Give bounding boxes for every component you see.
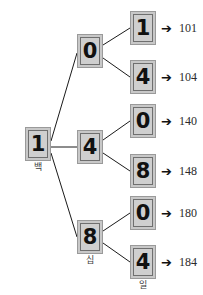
result-value-140: 140 — [179, 115, 197, 127]
node-ones-8[interactable]: 8 — [130, 154, 156, 188]
edge-4-to-8 — [103, 153, 130, 171]
edge-root-to-0 — [51, 53, 77, 141]
place-label-ones: 일 — [130, 280, 156, 290]
node-ones-1[interactable]: 1 — [130, 11, 156, 45]
result-148: ➔ 148 — [161, 164, 197, 178]
node-ones-0-mid[interactable]: 0 — [130, 104, 156, 138]
node-tens-4[interactable]: 4 — [77, 130, 103, 164]
node-ones-4-bottom[interactable]: 4 — [130, 245, 156, 279]
diagram-canvas: — —— — — — — — — 1 백 0 4 8 십 1 4 — [0, 0, 203, 295]
node-ones-1-digit: 1 — [133, 14, 153, 42]
node-ones-4-top-digit: 4 — [133, 63, 153, 91]
place-label-tens: 십 — [77, 255, 103, 265]
node-ones-0-bottom[interactable]: 0 — [130, 196, 156, 230]
result-value-104: 104 — [179, 71, 197, 83]
result-value-101: 101 — [179, 22, 197, 34]
result-184: ➔ 184 — [161, 255, 197, 269]
result-140: ➔ 140 — [161, 114, 197, 128]
result-101: ➔ 101 — [161, 21, 197, 35]
edge-8-to-0 — [103, 213, 130, 231]
edge-8-to-4 — [103, 243, 130, 262]
node-tens-0[interactable]: 0 — [77, 34, 103, 68]
node-ones-0-mid-digit: 0 — [133, 107, 153, 135]
node-root-digit: 1 — [28, 130, 48, 158]
node-ones-4-top[interactable]: 4 — [130, 60, 156, 94]
result-180: ➔ 180 — [161, 206, 197, 220]
place-label-hundreds: 백 — [25, 162, 51, 172]
edge-0-to-4 — [103, 58, 130, 77]
node-ones-0-bottom-digit: 0 — [133, 199, 153, 227]
node-tens-8-digit: 8 — [80, 223, 100, 251]
arrow-right-icon: ➔ — [161, 256, 172, 269]
arrow-right-icon: ➔ — [161, 71, 172, 84]
result-104: ➔ 104 — [161, 70, 197, 84]
node-root-hundreds[interactable]: 1 — [25, 127, 51, 161]
node-tens-8[interactable]: 8 — [77, 220, 103, 254]
result-value-184: 184 — [179, 256, 197, 268]
node-tens-0-digit: 0 — [80, 37, 100, 65]
clipped-header-text: — —— — — — — — — — [0, 0, 203, 9]
clipped-header-line: — —— — — — — — — — [0, 0, 115, 2]
arrow-right-icon: ➔ — [161, 22, 172, 35]
node-ones-4-bottom-digit: 4 — [133, 248, 153, 276]
result-value-180: 180 — [179, 207, 197, 219]
arrow-right-icon: ➔ — [161, 207, 172, 220]
arrow-right-icon: ➔ — [161, 165, 172, 178]
result-value-148: 148 — [179, 165, 197, 177]
node-tens-4-digit: 4 — [80, 133, 100, 161]
arrow-right-icon: ➔ — [161, 115, 172, 128]
edge-0-to-1 — [103, 28, 130, 45]
edge-root-to-8 — [51, 153, 77, 237]
node-ones-8-digit: 8 — [133, 157, 153, 185]
edge-4-to-0 — [103, 121, 130, 140]
